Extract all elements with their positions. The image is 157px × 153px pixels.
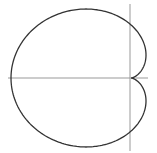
cardioid-diagram	[0, 0, 157, 153]
